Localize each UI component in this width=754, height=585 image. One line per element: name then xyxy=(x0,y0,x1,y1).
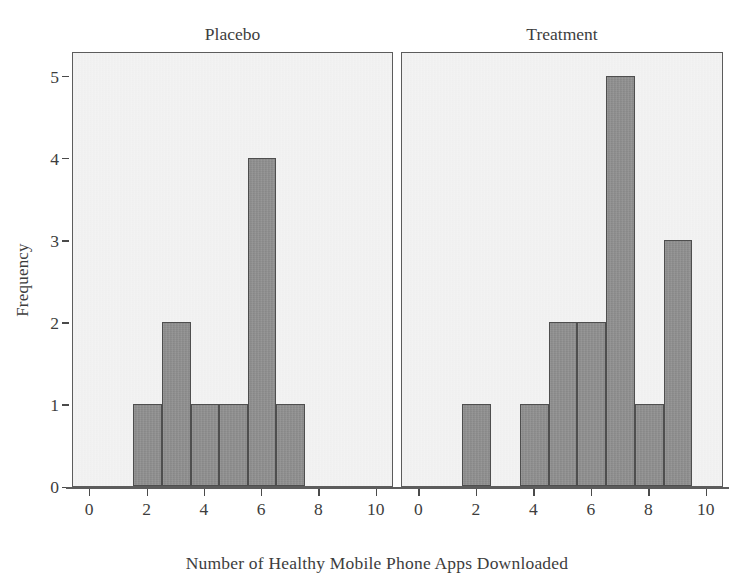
x-tick-mark xyxy=(648,489,649,496)
x-tick-mark xyxy=(706,489,707,496)
y-tick-label: 5 xyxy=(19,65,59,89)
x-tick-mark xyxy=(147,489,148,496)
histogram-bar xyxy=(248,158,277,486)
y-tick-mark xyxy=(62,158,69,159)
bar-texture xyxy=(521,405,548,485)
bar-texture xyxy=(665,241,692,485)
y-tick-label: 4 xyxy=(19,147,59,171)
y-axis-ticks: 012345 xyxy=(0,0,72,585)
x-tick-mark xyxy=(261,489,262,496)
histogram-bar xyxy=(162,322,191,486)
histogram-bar xyxy=(606,76,635,486)
histogram-bar xyxy=(664,240,693,486)
y-tick-mark xyxy=(62,322,69,323)
x-tick-label: 0 xyxy=(396,499,440,520)
bar-texture xyxy=(192,405,219,485)
x-tick-mark xyxy=(418,489,419,496)
x-axis-line xyxy=(395,487,729,489)
bar-texture xyxy=(578,323,605,485)
x-tick-mark xyxy=(204,489,205,496)
bar-texture xyxy=(636,405,663,485)
panel-title-placebo: Placebo xyxy=(72,24,393,45)
x-axis-title: Number of Healthy Mobile Phone Apps Down… xyxy=(0,553,754,574)
histogram-bar xyxy=(549,322,578,486)
x-tick-label: 8 xyxy=(626,499,670,520)
plot-panel-treatment xyxy=(401,52,723,487)
x-axis-line xyxy=(66,487,399,489)
x-tick-label: 6 xyxy=(569,499,613,520)
bar-texture xyxy=(249,159,276,485)
x-tick-label: 6 xyxy=(239,499,283,520)
x-tick-mark xyxy=(533,489,534,496)
histogram-bar xyxy=(219,404,248,486)
bar-texture xyxy=(550,323,577,485)
histogram-bar xyxy=(133,404,162,486)
histogram-bar xyxy=(577,322,606,486)
x-tick-label: 4 xyxy=(182,499,226,520)
histogram-bar xyxy=(276,404,305,486)
y-tick-label: 2 xyxy=(19,311,59,335)
y-tick-label: 3 xyxy=(19,229,59,253)
bar-texture xyxy=(463,405,490,485)
x-tick-mark xyxy=(318,489,319,496)
histogram-bar xyxy=(462,404,491,486)
histogram-bar xyxy=(520,404,549,486)
x-tick-mark xyxy=(376,489,377,496)
histogram-figure: Frequency 012345 Placebo0246810Treatment… xyxy=(0,0,754,585)
y-tick-mark xyxy=(62,240,69,241)
bar-texture xyxy=(134,405,161,485)
x-tick-label: 2 xyxy=(454,499,498,520)
y-tick-mark xyxy=(62,76,69,77)
x-tick-label: 4 xyxy=(511,499,555,520)
y-tick-label: 1 xyxy=(19,393,59,417)
plot-panel-placebo xyxy=(72,52,393,487)
bar-texture xyxy=(163,323,190,485)
x-tick-mark xyxy=(591,489,592,496)
x-tick-label: 10 xyxy=(684,499,728,520)
y-tick-label: 0 xyxy=(19,475,59,499)
panel-title-treatment: Treatment xyxy=(401,24,723,45)
x-tick-label: 0 xyxy=(67,499,111,520)
x-tick-label: 10 xyxy=(354,499,398,520)
x-tick-label: 2 xyxy=(125,499,169,520)
bar-texture xyxy=(220,405,247,485)
bar-texture xyxy=(607,77,634,485)
x-tick-mark xyxy=(476,489,477,496)
bar-texture xyxy=(277,405,304,485)
x-tick-label: 8 xyxy=(296,499,340,520)
histogram-bar xyxy=(191,404,220,486)
y-tick-mark xyxy=(62,404,69,405)
histogram-bar xyxy=(635,404,664,486)
x-tick-mark xyxy=(89,489,90,496)
